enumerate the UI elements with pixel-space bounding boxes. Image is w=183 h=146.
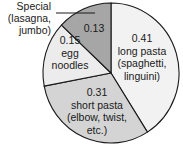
slice-name-label: short pasta [71,99,123,111]
slice-value-label: 0.41 [132,32,153,44]
callout-label-line: jumbo) [18,24,51,36]
slice-name-label: linguini) [124,70,160,82]
slice-name-label: noodles [52,59,89,71]
slice-value-label: 0.15 [60,34,81,46]
slice-name-label: etc.) [87,124,107,136]
callout-label-line: Special [17,0,51,12]
callout-label-line: (lasagna, [8,12,51,24]
slice-name-label: (spaghetti, [117,57,166,69]
slice-name-label: (elbow, twist, [67,111,127,123]
pie-chart: 0.41long pasta(spaghetti,linguini)0.31sh… [0,0,183,146]
slice-value-label: 0.13 [84,22,105,34]
slice-value-label: 0.31 [87,86,108,98]
slice-name-label: egg [61,47,79,59]
callout-label: Special(lasagna,jumbo) [8,0,51,36]
slice-name-label: long pasta [118,45,167,57]
slice-label: 0.13 [84,22,105,34]
